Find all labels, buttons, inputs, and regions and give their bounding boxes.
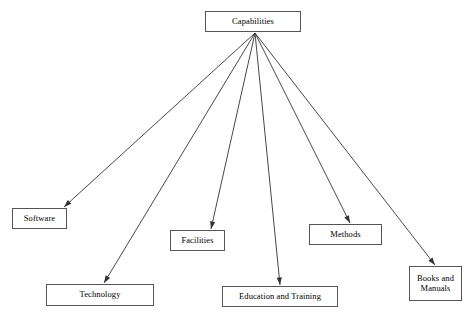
node-capabilities[interactable]: Capabilities xyxy=(205,11,301,32)
node-label-facilities: Facilities xyxy=(181,236,213,246)
diagram-canvas: Capabilities Software Technology Facilit… xyxy=(0,0,470,316)
node-label-books-and-manuals: Books and Manuals xyxy=(417,274,454,293)
edge-layer xyxy=(0,0,470,316)
node-technology[interactable]: Technology xyxy=(46,284,154,306)
arrowhead-technology xyxy=(104,275,110,283)
arrowhead-methods xyxy=(344,215,350,223)
node-label-methods: Methods xyxy=(330,230,360,240)
edge-capabilities-to-methods xyxy=(255,33,350,223)
node-label-education-and-training: Education and Training xyxy=(239,292,321,302)
arrowhead-education-and-training xyxy=(277,277,282,285)
node-label-technology: Technology xyxy=(79,290,120,300)
arrowhead-books-and-manuals xyxy=(428,257,435,265)
edge-capabilities-to-education-and-training xyxy=(255,33,280,285)
edge-capabilities-to-facilities xyxy=(211,33,255,229)
arrowhead-facilities xyxy=(210,221,215,229)
node-label-capabilities: Capabilities xyxy=(232,17,274,27)
node-books-and-manuals[interactable]: Books and Manuals xyxy=(409,266,462,301)
edge-capabilities-to-software xyxy=(64,33,255,207)
node-methods[interactable]: Methods xyxy=(309,224,382,245)
node-facilities[interactable]: Facilities xyxy=(170,230,225,251)
node-label-software: Software xyxy=(24,214,55,224)
node-education-and-training[interactable]: Education and Training xyxy=(222,286,338,307)
node-software[interactable]: Software xyxy=(12,208,67,229)
